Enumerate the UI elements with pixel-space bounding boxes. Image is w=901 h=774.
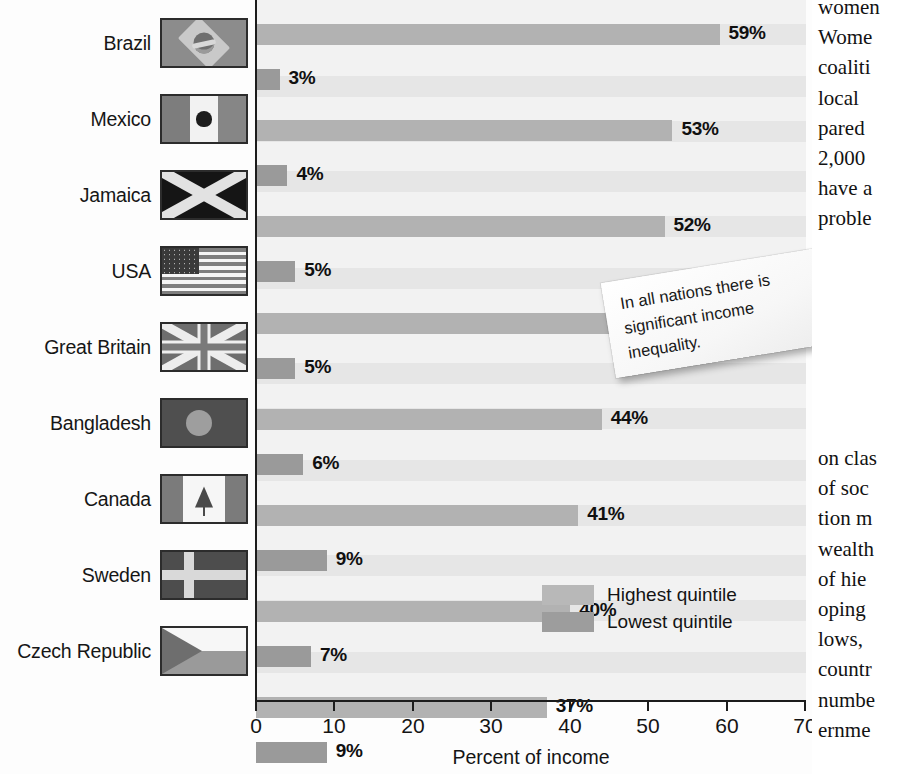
plot-band (256, 673, 806, 700)
bar-lowest-usa (256, 358, 295, 379)
x-axis-title: Percent of income (256, 746, 806, 769)
flag-bangladesh-icon (160, 398, 248, 448)
x-tick (255, 700, 257, 711)
legend-item-lowest-quintile: Lowest quintile (542, 610, 737, 634)
body-text-line: women (812, 0, 880, 22)
plot-band (256, 0, 806, 24)
body-text-line: of soc (812, 473, 877, 503)
plot-band (256, 384, 806, 408)
category-row-great-britain: Great Britain (0, 314, 248, 380)
x-tick-label: 20 (401, 714, 424, 738)
x-tick (726, 700, 728, 711)
bar-value-label: 52% (674, 214, 711, 235)
bar-value-label: 9% (336, 548, 363, 569)
bar-lowest-mexico (256, 165, 287, 186)
body-text-line: countr (812, 654, 877, 684)
bar-value-label: 53% (681, 118, 718, 139)
flag-great-britain-icon (160, 322, 248, 372)
legend-label: Lowest quintile (607, 611, 733, 633)
body-text-line: oping (812, 594, 877, 624)
plot-band (256, 45, 806, 76)
body-text-block-bottom: on clas of soc tion m wealth of hie opin… (812, 443, 877, 745)
country-label: Mexico (90, 108, 151, 131)
body-text-line: Wome (812, 22, 880, 52)
x-tick-label: 60 (715, 714, 738, 738)
bar-lowest-great-britain (256, 454, 303, 475)
flag-mexico-icon (160, 94, 248, 144)
category-row-jamaica: Jamaica (0, 162, 248, 228)
bar-value-label: 6% (312, 452, 339, 473)
bar-lowest-canada (256, 646, 311, 667)
bar-highest-brazil (256, 24, 720, 45)
flag-czech-republic-icon (160, 626, 248, 676)
bar-highest-mexico (256, 120, 672, 141)
body-text-line: lows, (812, 624, 877, 654)
plot-band (256, 142, 806, 171)
legend-label: Highest quintile (607, 584, 737, 606)
category-axis-labels: Brazil Mexico Jamaica USA (0, 0, 250, 700)
country-label: Brazil (103, 32, 151, 55)
y-axis-line (255, 0, 257, 700)
body-text-line: tion m (812, 503, 877, 533)
category-row-mexico: Mexico (0, 86, 248, 152)
body-text-line: on clas (812, 443, 877, 473)
x-tick-label: 30 (479, 714, 502, 738)
legend-item-highest-quintile: Highest quintile (542, 583, 737, 607)
bar-highest-canada (256, 601, 570, 622)
bar-highest-usa (256, 313, 617, 334)
country-label: USA (112, 260, 152, 283)
legend-swatch-icon (542, 585, 594, 605)
plot-band (256, 481, 806, 505)
bar-value-label: 44% (611, 407, 648, 428)
country-label: Bangladesh (50, 412, 151, 435)
bar-highest-jamaica (256, 216, 665, 237)
x-tick-label: 40 (558, 714, 581, 738)
body-text-block-top: women Wome coaliti local pared 2,000 hav… (812, 0, 880, 234)
category-row-sweden: Sweden (0, 542, 248, 608)
flag-usa-icon (160, 246, 248, 296)
x-tick (412, 700, 414, 711)
bar-lowest-brazil (256, 69, 280, 90)
country-label: Czech Republic (17, 640, 151, 663)
body-text-line: ernme (812, 715, 877, 745)
bar-highest-great-britain (256, 409, 602, 430)
body-text-column: women Wome coaliti local pared 2,000 hav… (812, 0, 901, 774)
country-label: Great Britain (44, 336, 151, 359)
body-text-line: wealth (812, 534, 877, 564)
body-text-line: coaliti (812, 52, 880, 82)
category-row-usa: USA (0, 238, 248, 304)
x-tick-label: 50 (636, 714, 659, 738)
bar-lowest-jamaica (256, 261, 295, 282)
bar-value-label: 5% (304, 356, 331, 377)
legend-swatch-icon (542, 612, 594, 632)
bar-value-label: 3% (289, 67, 316, 88)
plot-band (256, 192, 806, 216)
body-text-line: 2,000 (812, 143, 880, 173)
body-text-line: have a (812, 173, 880, 203)
x-tick-label: 10 (322, 714, 345, 738)
bar-value-label: 5% (304, 259, 331, 280)
body-text-line: of hie (812, 564, 877, 594)
plot-band (256, 97, 806, 121)
x-tick-label: 0 (250, 714, 262, 738)
flag-jamaica-icon (160, 170, 248, 220)
bar-value-label: 59% (729, 22, 766, 43)
bar-value-label: 41% (587, 503, 624, 524)
flag-sweden-icon (160, 550, 248, 600)
category-row-czech-republic: Czech Republic (0, 618, 248, 684)
body-text-line: local (812, 83, 880, 113)
x-axis-line (255, 700, 806, 702)
category-row-bangladesh: Bangladesh (0, 390, 248, 456)
x-tick (569, 700, 571, 711)
flag-canada-icon (160, 474, 248, 524)
x-tick (804, 700, 806, 711)
body-text-line: proble (812, 203, 880, 233)
country-label: Canada (84, 488, 151, 511)
x-tick (333, 700, 335, 711)
body-text-line: numbe (812, 685, 877, 715)
bar-lowest-bangladesh (256, 550, 327, 571)
country-label: Jamaica (80, 184, 151, 207)
flag-brazil-icon (160, 18, 248, 68)
bar-value-label: 4% (296, 163, 323, 184)
country-label: Sweden (82, 564, 151, 587)
